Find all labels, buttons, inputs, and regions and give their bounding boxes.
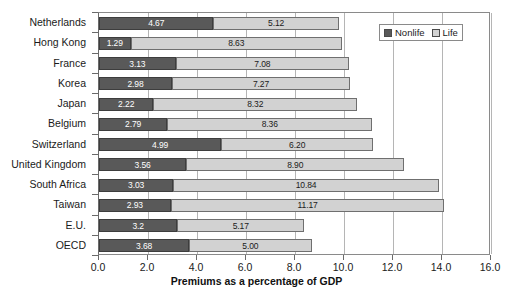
x-axis-tick-label: 2.0 (140, 261, 155, 273)
bar-segment-nonlife: 2.79 (99, 118, 167, 131)
x-axis-tick (196, 255, 197, 260)
y-axis-tick (92, 235, 98, 236)
legend-item-life[interactable]: Life (432, 27, 458, 38)
bar-segment-nonlife: 4.67 (99, 17, 213, 30)
legend-swatch-life (432, 29, 440, 37)
category-label-belgium: Belgium (48, 117, 86, 129)
bar-segment-nonlife: 4.99 (99, 138, 221, 151)
bar-value-label: 3.56 (135, 160, 151, 169)
bar-segment-nonlife: 1.29 (99, 37, 131, 50)
bar-segment-nonlife: 3.68 (99, 239, 189, 252)
bar-value-label: 5.17 (233, 221, 249, 230)
bar-segment-life: 11.17 (171, 199, 445, 212)
bar-segment-nonlife: 2.93 (99, 199, 171, 212)
bar-segment-life: 5.12 (213, 17, 338, 30)
bar-value-label: 2.93 (127, 201, 143, 210)
y-axis-tick (92, 73, 98, 74)
bar-segment-nonlife: 3.13 (99, 57, 176, 70)
bar-value-label: 1.29 (107, 39, 123, 48)
bar-segment-life: 8.63 (131, 37, 342, 50)
y-axis-tick (92, 215, 98, 216)
bar-segment-life: 7.08 (176, 57, 349, 70)
bar-value-label: 8.90 (287, 160, 303, 169)
x-axis-tick-label: 10.0 (333, 261, 353, 273)
x-axis-title: Premiums as a percentage of GDP (0, 275, 513, 287)
x-axis-tick-label: 4.0 (189, 261, 204, 273)
x-axis-tick (343, 255, 344, 260)
bar-segment-life: 8.90 (186, 158, 404, 171)
bar-value-label: 3.03 (128, 181, 144, 190)
y-axis-tick (92, 134, 98, 135)
x-axis-tick (441, 255, 442, 260)
bar-value-label: 3.2 (132, 221, 144, 230)
gridline (491, 13, 492, 254)
bar-row: 2.798.36 (99, 118, 491, 131)
bar-row: 3.0310.84 (99, 179, 491, 192)
category-label-oecd: OECD (56, 239, 86, 251)
category-label-france: France (53, 57, 86, 69)
bar-value-label: 2.22 (118, 100, 134, 109)
legend: NonlifeLife (379, 24, 463, 41)
legend-label: Nonlife (395, 27, 425, 38)
category-label-taiwan: Taiwan (53, 198, 86, 210)
bar-segment-life: 5.00 (189, 239, 312, 252)
bar-row: 3.25.17 (99, 219, 491, 232)
bar-segment-nonlife: 3.03 (99, 179, 173, 192)
bar-row: 3.685.00 (99, 239, 491, 252)
y-axis-tick (92, 174, 98, 175)
category-label-switzerland: Switzerland (32, 138, 86, 150)
bar-segment-nonlife: 2.98 (99, 77, 172, 90)
legend-label: Life (443, 27, 458, 38)
y-axis-tick (92, 93, 98, 94)
bar-segment-life: 6.20 (221, 138, 373, 151)
bar-segment-nonlife: 3.56 (99, 158, 186, 171)
x-axis-tick-label: 0.0 (91, 261, 106, 273)
category-label-netherlands: Netherlands (29, 16, 86, 28)
bar-segment-life: 10.84 (173, 179, 439, 192)
legend-item-nonlife[interactable]: Nonlife (384, 27, 425, 38)
bar-row: 3.137.08 (99, 57, 491, 70)
bar-value-label: 4.67 (148, 19, 164, 28)
bar-row: 2.9311.17 (99, 199, 491, 212)
bar-segment-nonlife: 2.22 (99, 98, 153, 111)
bar-value-label: 3.13 (129, 59, 145, 68)
category-label-hong-kong: Hong Kong (33, 36, 86, 48)
x-axis-tick (490, 255, 491, 260)
legend-swatch-nonlife (384, 29, 392, 37)
bar-row: 2.987.27 (99, 77, 491, 90)
x-axis-tick-label: 14.0 (431, 261, 451, 273)
y-axis-tick (92, 32, 98, 33)
y-axis-tick (92, 113, 98, 114)
bar-segment-life: 8.32 (153, 98, 357, 111)
category-label-south-africa: South Africa (29, 178, 86, 190)
bar-segment-life: 7.27 (172, 77, 350, 90)
y-axis-tick (92, 53, 98, 54)
x-axis-tick (98, 255, 99, 260)
x-axis-tick (294, 255, 295, 260)
bar-value-label: 8.36 (262, 120, 278, 129)
category-label-united-kingdom: United Kingdom (11, 158, 86, 170)
bar-value-label: 2.79 (125, 120, 141, 129)
category-label-korea: Korea (58, 77, 86, 89)
bar-row: 4.996.20 (99, 138, 491, 151)
bar-row: 2.228.32 (99, 98, 491, 111)
bar-value-label: 5.12 (268, 19, 284, 28)
bar-segment-nonlife: 3.2 (99, 219, 177, 232)
bar-segment-life: 8.36 (167, 118, 372, 131)
x-axis-tick (245, 255, 246, 260)
bar-value-label: 8.32 (247, 100, 263, 109)
bar-value-label: 5.00 (242, 241, 258, 250)
bar-value-label: 11.17 (298, 201, 318, 210)
category-label-e-u: E.U. (66, 219, 86, 231)
x-axis-tick-label: 6.0 (238, 261, 253, 273)
bar-value-label: 10.84 (296, 181, 317, 190)
y-axis-tick (92, 194, 98, 195)
bar-value-label: 8.63 (228, 39, 244, 48)
x-axis-tick (147, 255, 148, 260)
x-axis-tick-label: 8.0 (287, 261, 302, 273)
bar-value-label: 6.20 (289, 140, 305, 149)
bar-value-label: 7.08 (254, 59, 270, 68)
category-axis-labels: NetherlandsHong KongFranceKoreaJapanBelg… (0, 12, 92, 255)
plot-area: 4.675.121.298.633.137.082.987.272.228.32… (98, 12, 490, 255)
x-axis-tick (392, 255, 393, 260)
